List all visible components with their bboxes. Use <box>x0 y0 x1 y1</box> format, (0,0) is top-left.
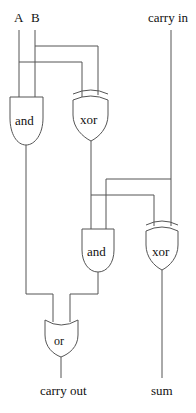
and-gate-1: and <box>10 97 43 145</box>
carry-out-label: carry out <box>40 383 87 398</box>
svg-text:xor: xor <box>152 244 170 259</box>
or-gate: or <box>45 320 78 357</box>
full-adder-diagram: A B carry in and xor and <box>0 0 196 413</box>
wire-b-to-xor1 <box>35 46 98 95</box>
svg-text:and: and <box>87 244 106 259</box>
svg-text:or: or <box>54 334 64 348</box>
wire-xor1-to-xor2 <box>91 195 154 226</box>
wire-and1-to-or <box>26 145 53 322</box>
wire-cin-to-and2 <box>106 179 171 230</box>
wire-and2-to-or <box>70 272 98 322</box>
carry-in-label: carry in <box>148 10 189 25</box>
and-gate-2: and <box>82 229 114 272</box>
svg-text:xor: xor <box>80 112 98 127</box>
xor-gate-1: xor <box>73 90 108 141</box>
input-b-label: B <box>31 10 40 25</box>
sum-label: sum <box>151 383 173 398</box>
input-wires <box>19 30 171 378</box>
input-a-label: A <box>14 10 24 25</box>
wire-a-to-xor1 <box>19 62 82 98</box>
xor-gate-2: xor <box>146 221 178 270</box>
svg-text:and: and <box>15 113 34 128</box>
